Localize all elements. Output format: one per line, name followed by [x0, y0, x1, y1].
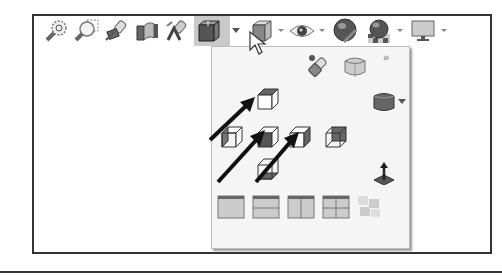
arrow-icon — [218, 130, 265, 182]
arrow-icon — [256, 132, 299, 182]
arrow-icon — [210, 97, 255, 140]
mouse-cursor-icon — [248, 30, 268, 56]
